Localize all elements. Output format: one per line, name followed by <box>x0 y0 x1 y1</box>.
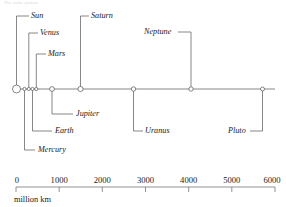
label-sun: Sun <box>31 11 43 20</box>
marker-sun[interactable] <box>13 85 21 93</box>
marker-jupiter[interactable] <box>50 87 55 92</box>
marker-mars[interactable] <box>35 87 38 90</box>
scale-label-2000: 2000 <box>94 175 111 185</box>
marker-saturn[interactable] <box>78 86 83 91</box>
marker-venus[interactable] <box>27 87 30 90</box>
label-jupiter: Jupiter <box>76 109 100 118</box>
label-pluto: Pluto <box>227 126 246 135</box>
figure-caption: The solar system <box>4 0 38 5</box>
scale-label-1000: 1000 <box>51 175 68 185</box>
label-mercury: Mercury <box>37 145 66 154</box>
scale-label-4000: 4000 <box>180 175 197 185</box>
leader-line-uranus <box>134 91 144 131</box>
leader-line-neptune <box>178 32 191 87</box>
label-venus: Venus <box>40 28 59 37</box>
marker-mercury[interactable] <box>23 87 26 90</box>
marker-earth[interactable] <box>31 87 34 90</box>
label-neptune: Neptune <box>143 27 172 36</box>
leader-line-mercury <box>25 91 36 150</box>
label-mars: Mars <box>47 49 65 58</box>
marker-neptune[interactable] <box>189 87 193 91</box>
marker-uranus[interactable] <box>131 87 135 91</box>
marker-pluto[interactable] <box>261 87 265 91</box>
label-saturn: Saturn <box>91 11 113 20</box>
leader-line-earth <box>33 91 53 131</box>
solar-system-distance-diagram: The solar system Sun Venus Mars Saturn N… <box>0 0 286 207</box>
scale-label-5000: 5000 <box>223 175 240 185</box>
scale-label-0: 0 <box>15 175 19 185</box>
leader-line-pluto <box>250 91 263 131</box>
scale-label-3000: 3000 <box>137 175 154 185</box>
label-uranus: Uranus <box>145 126 170 135</box>
leader-line-mars <box>36 54 46 87</box>
leader-line-sun <box>17 16 30 85</box>
scale-label-6000: 6000 <box>263 175 280 185</box>
leader-line-jupiter <box>52 91 73 114</box>
leader-line-saturn <box>81 16 90 86</box>
axis-unit-label: million km <box>14 195 51 204</box>
label-earth: Earth <box>54 126 74 135</box>
